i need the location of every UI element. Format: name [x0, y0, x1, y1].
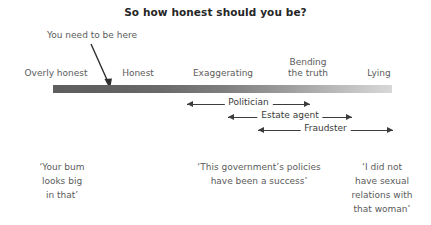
scale-label-lying: Lying	[350, 68, 408, 79]
callout-label: You need to be here	[47, 30, 137, 40]
quote-government-policies-line1: ‘This government’s policies	[186, 160, 332, 174]
scale-label-bending-the-truth-line1: Bending	[274, 57, 342, 68]
quote-sexual-relations-line4: that woman’	[336, 202, 428, 216]
arrow-right-icon	[346, 114, 352, 120]
range-politician-label: Politician	[224, 97, 272, 108]
quote-sexual-relations: ‘I did not have sexual relations with th…	[336, 160, 428, 216]
arrow-right-icon	[387, 127, 393, 133]
quote-sexual-relations-line2: have sexual	[336, 174, 428, 188]
quote-sexual-relations-line3: relations with	[336, 188, 428, 202]
scale-label-overly-honest: Overly honest	[16, 68, 96, 79]
quote-your-bum: ‘Your bum looks big in that’	[14, 160, 110, 202]
scale-label-exaggerating: Exaggerating	[178, 68, 268, 79]
range-estate-agent-label: Estate agent	[257, 110, 322, 121]
honesty-gradient-bar	[53, 85, 392, 93]
honesty-scale-figure: So how honest should you be? You need to…	[0, 0, 431, 225]
quote-government-policies-line2: have been a success’	[186, 174, 332, 188]
quote-sexual-relations-line1: ‘I did not	[336, 160, 428, 174]
quote-your-bum-line3: in that’	[14, 188, 110, 202]
scale-label-bending-the-truth: Bending the truth	[274, 57, 342, 79]
range-fraudster: Fraudster	[258, 124, 393, 137]
quote-your-bum-line2: looks big	[14, 174, 110, 188]
range-fraudster-label: Fraudster	[300, 123, 351, 134]
arrow-right-icon	[304, 101, 310, 107]
quote-government-policies: ‘This government’s policies have been a …	[186, 160, 332, 188]
arrow-left-icon	[187, 101, 193, 107]
arrow-left-icon	[228, 114, 234, 120]
scale-label-honest: Honest	[104, 68, 172, 79]
page-title: So how honest should you be?	[0, 6, 431, 18]
scale-label-bending-the-truth-line2: the truth	[274, 68, 342, 79]
quote-your-bum-line1: ‘Your bum	[14, 160, 110, 174]
arrow-left-icon	[258, 127, 264, 133]
